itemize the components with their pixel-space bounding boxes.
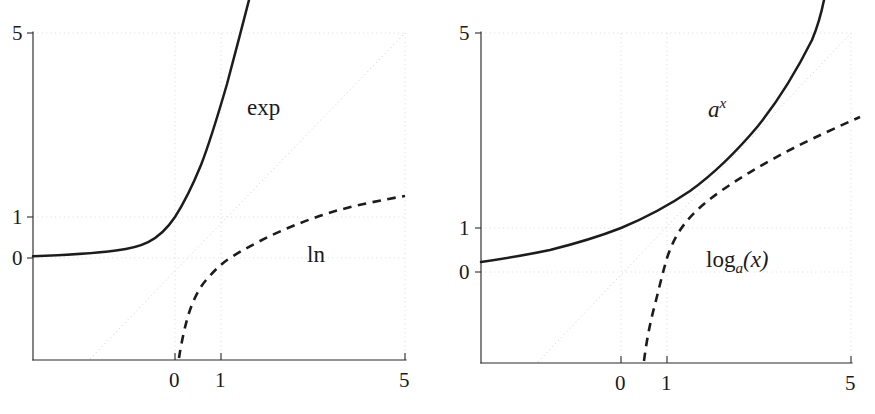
label-log-prefix: log [706,247,735,272]
plot-panel-exp-ln: 5 1 0 0 1 5 exp ln [0,0,440,414]
identity-diagonal-line [538,33,851,362]
y-tick-label-5: 5 [12,23,23,44]
curve-label-exp: exp [247,96,280,119]
x-tick-label-5: 5 [399,370,410,391]
curve-label-a-to-the-x: ax [708,98,726,121]
plot-panel-ax-loga: 5 1 0 0 1 5 ax loga(x) [440,0,875,414]
gridlines-right [481,33,851,363]
exponential-logarithm-figure: 5 1 0 0 1 5 exp ln [0,0,875,414]
plot-canvas-right [440,0,875,414]
identity-diagonal-line [90,33,405,359]
x-tick-label-0: 0 [169,370,180,391]
label-exponent-x: x [720,94,727,111]
label-base-a: a [708,97,720,122]
y-tick-label-0: 0 [12,248,23,269]
curve-exp [33,0,249,256]
curve-ln [179,196,405,358]
label-log-subscript-a: a [735,259,743,276]
x-tick-label-5: 5 [845,373,856,394]
label-log-argument: (x) [743,247,769,272]
axes-right [475,32,852,363]
curve-a-to-the-x [481,0,824,262]
axes-left [27,32,406,360]
y-tick-label-1: 1 [12,207,23,228]
curve-log-base-a [644,117,860,361]
curve-label-log-base-a: loga(x) [706,248,769,271]
y-tick-label-0: 0 [459,262,470,283]
plot-canvas-left [0,0,440,414]
x-tick-label-1: 1 [215,370,226,391]
gridlines-left [33,33,405,360]
x-tick-label-1: 1 [661,373,672,394]
curve-label-ln: ln [307,243,325,266]
y-tick-label-5: 5 [459,23,470,44]
x-tick-label-0: 0 [615,373,626,394]
y-tick-label-1: 1 [459,218,470,239]
